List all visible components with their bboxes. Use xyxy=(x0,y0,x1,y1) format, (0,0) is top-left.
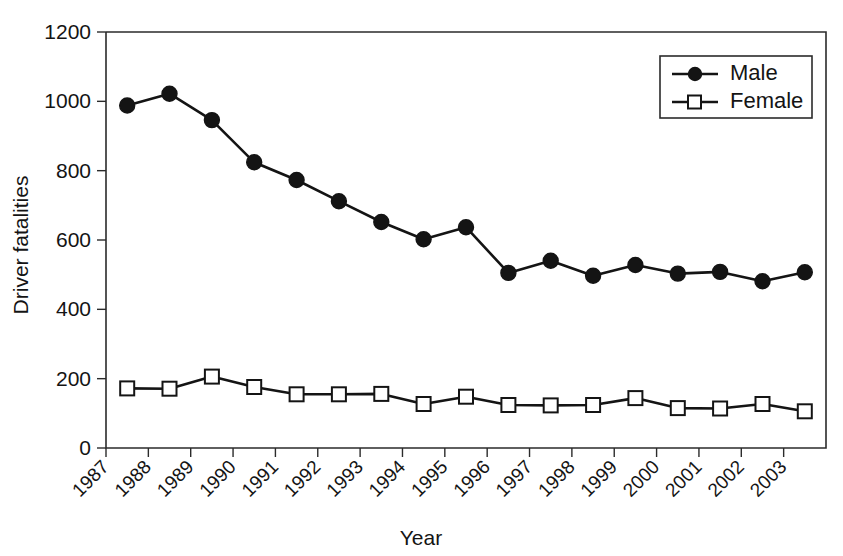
y-tick-label: 400 xyxy=(56,297,91,320)
x-tick-label: 1989 xyxy=(153,456,198,501)
x-axis-ticks: 1987198819891990199119921993199419951996… xyxy=(68,448,790,501)
data-point-male xyxy=(501,265,516,280)
data-point-female xyxy=(713,402,727,416)
legend-marker-male xyxy=(689,68,702,81)
data-point-male xyxy=(713,264,728,279)
series-line-male xyxy=(127,94,805,282)
legend-marker-female xyxy=(688,96,701,109)
data-point-male xyxy=(755,274,770,289)
data-point-female xyxy=(205,370,219,384)
x-tick-label: 2003 xyxy=(746,456,791,501)
data-point-male xyxy=(670,266,685,281)
data-point-male xyxy=(247,155,262,170)
x-tick-label: 1996 xyxy=(449,456,494,501)
y-axis-title: Driver fatalities xyxy=(9,176,32,315)
data-point-female xyxy=(459,390,473,404)
x-axis-title: Year xyxy=(400,526,442,549)
x-tick-label: 1997 xyxy=(492,456,537,501)
y-tick-label: 200 xyxy=(56,367,91,390)
data-point-female xyxy=(332,387,346,401)
data-point-female xyxy=(501,398,515,412)
data-point-female xyxy=(671,401,685,415)
chart-legend: MaleFemale xyxy=(660,56,812,118)
x-tick-label: 1988 xyxy=(110,456,155,501)
x-tick-label: 2002 xyxy=(703,456,748,501)
data-point-female xyxy=(417,397,431,411)
line-chart: 020040060080010001200 198719881989199019… xyxy=(0,0,843,556)
x-tick-label: 1992 xyxy=(280,456,325,501)
x-tick-label: 1999 xyxy=(576,456,621,501)
data-point-male xyxy=(204,113,219,128)
y-tick-label: 600 xyxy=(56,228,91,251)
data-point-male xyxy=(374,215,389,230)
data-point-female xyxy=(756,397,770,411)
y-tick-label: 1200 xyxy=(44,20,91,43)
data-point-female xyxy=(247,380,261,394)
data-point-male xyxy=(416,232,431,247)
legend-label-male: Male xyxy=(730,60,778,85)
data-point-female xyxy=(586,398,600,412)
x-tick-label: 1987 xyxy=(68,456,113,501)
x-tick-label: 1998 xyxy=(534,456,579,501)
data-point-male xyxy=(459,220,474,235)
data-point-female xyxy=(163,382,177,396)
x-tick-label: 1994 xyxy=(365,456,410,501)
y-tick-label: 800 xyxy=(56,159,91,182)
data-point-male xyxy=(289,173,304,188)
chart-container: 020040060080010001200 198719881989199019… xyxy=(0,0,843,556)
x-tick-label: 1990 xyxy=(195,456,240,501)
y-tick-label: 0 xyxy=(79,436,91,459)
data-point-male xyxy=(797,265,812,280)
data-point-male xyxy=(586,268,601,283)
data-point-male xyxy=(120,98,135,113)
data-point-male xyxy=(543,253,558,268)
data-point-male xyxy=(628,258,643,273)
data-point-female xyxy=(798,404,812,418)
y-axis-ticks: 020040060080010001200 xyxy=(44,20,106,459)
data-point-female xyxy=(120,381,134,395)
series-layer xyxy=(120,86,813,418)
data-point-female xyxy=(628,391,642,405)
x-tick-label: 1991 xyxy=(237,456,282,501)
data-point-female xyxy=(374,387,388,401)
data-point-male xyxy=(331,194,346,209)
data-point-female xyxy=(290,387,304,401)
x-tick-label: 1993 xyxy=(322,456,367,501)
data-point-female xyxy=(544,398,558,412)
x-tick-label: 1995 xyxy=(407,456,452,501)
x-tick-label: 2000 xyxy=(619,456,664,501)
y-tick-label: 1000 xyxy=(44,89,91,112)
data-point-male xyxy=(162,86,177,101)
legend-label-female: Female xyxy=(730,88,803,113)
x-tick-label: 2001 xyxy=(661,456,706,501)
